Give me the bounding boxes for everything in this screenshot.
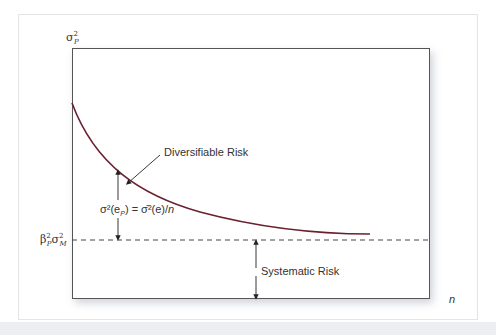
diversifiable-risk-label: Diversifiable Risk	[164, 146, 248, 158]
chart-graphics	[0, 0, 496, 335]
diversifiable-pointer	[128, 155, 160, 183]
systematic-risk-label: Systematic Risk	[261, 265, 339, 277]
x-axis-label: n	[449, 293, 455, 305]
systematic-level-label: β2Pσ2M	[40, 232, 67, 248]
y-axis-label: σ2P	[66, 30, 79, 46]
diversifiable-formula: σ²(eP) = σ̄²(e)/n	[100, 203, 174, 217]
